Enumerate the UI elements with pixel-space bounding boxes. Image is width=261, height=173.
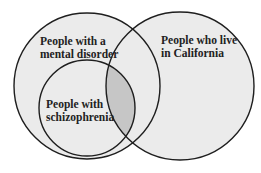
label-schizophrenia: People with schizophrenia	[46, 98, 114, 124]
label-mental-disorder: People with a mental disorder	[40, 35, 118, 60]
venn-diagram: People with a mental disorder People who…	[0, 0, 261, 173]
